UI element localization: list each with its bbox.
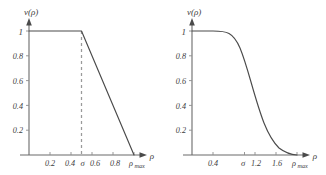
rhomax-base-right: ρ (291, 159, 296, 168)
rhomax-sub-left: max (135, 162, 146, 169)
y-tick-label-1-left: 1 (19, 27, 24, 37)
y-tick-label-02-right: 0.2 (176, 126, 186, 135)
y-axis-label-right: v(ρ) (187, 7, 201, 17)
chart-panel-right: v(ρ) 1 0.8 0.6 0.4 0.2 0.4 σ 1.2 1.6 ρ m… (163, 0, 326, 175)
x-tick-label-04-left: 0.4 (65, 159, 75, 168)
y-axis-label-left: v(ρ) (24, 7, 38, 17)
x-tick-label-rhomax-right: ρ max (291, 159, 308, 169)
y-tick-label-06-left: 0.6 (13, 77, 24, 86)
x-tick-label-06-left: 0.6 (90, 159, 101, 168)
velocity-curve-right (192, 31, 297, 155)
y-tick-label-04-right: 0.4 (176, 102, 186, 111)
x-axis-arrowhead-right (303, 152, 311, 158)
y-tick-label-02-left: 0.2 (13, 126, 23, 135)
x-tick-label-sigma-right: σ (241, 158, 246, 168)
rhomax-base-left: ρ (128, 159, 133, 168)
y-axis-arrowhead-right (189, 18, 195, 26)
y-tick-label-04-left: 0.4 (13, 102, 23, 111)
x-tick-label-sigma-left: σ (80, 158, 85, 168)
rhomax-sub-right: max (298, 162, 309, 169)
y-tick-label-06-right: 0.6 (176, 77, 187, 86)
chart-svg-left: v(ρ) 1 0.8 0.6 0.4 0.2 0.2 0.4 σ 0.6 0.8… (0, 0, 163, 175)
y-axis-arrowhead-left (26, 18, 32, 26)
x-axis-arrowhead-left (140, 152, 148, 158)
x-tick-label-12-right: 1.2 (251, 159, 261, 168)
x-tick-label-rhomax-left: ρ max (128, 159, 145, 169)
y-tick-label-08-left: 0.8 (13, 52, 23, 61)
x-tick-label-08-left: 0.8 (110, 159, 120, 168)
chart-panel-left: v(ρ) 1 0.8 0.6 0.4 0.2 0.2 0.4 σ 0.6 0.8… (0, 0, 163, 175)
y-tick-label-1-right: 1 (182, 27, 187, 37)
figure-container: v(ρ) 1 0.8 0.6 0.4 0.2 0.2 0.4 σ 0.6 0.8… (0, 0, 326, 175)
y-tick-label-08-right: 0.8 (176, 52, 186, 61)
x-tick-label-04-right: 0.4 (208, 159, 218, 168)
x-axis-label-left: ρ (149, 151, 155, 161)
chart-svg-right: v(ρ) 1 0.8 0.6 0.4 0.2 0.4 σ 1.2 1.6 ρ m… (163, 0, 326, 175)
x-axis-label-right: ρ (312, 151, 318, 161)
x-tick-label-16-right: 1.6 (272, 159, 283, 168)
x-tick-label-02-left: 0.2 (45, 159, 55, 168)
